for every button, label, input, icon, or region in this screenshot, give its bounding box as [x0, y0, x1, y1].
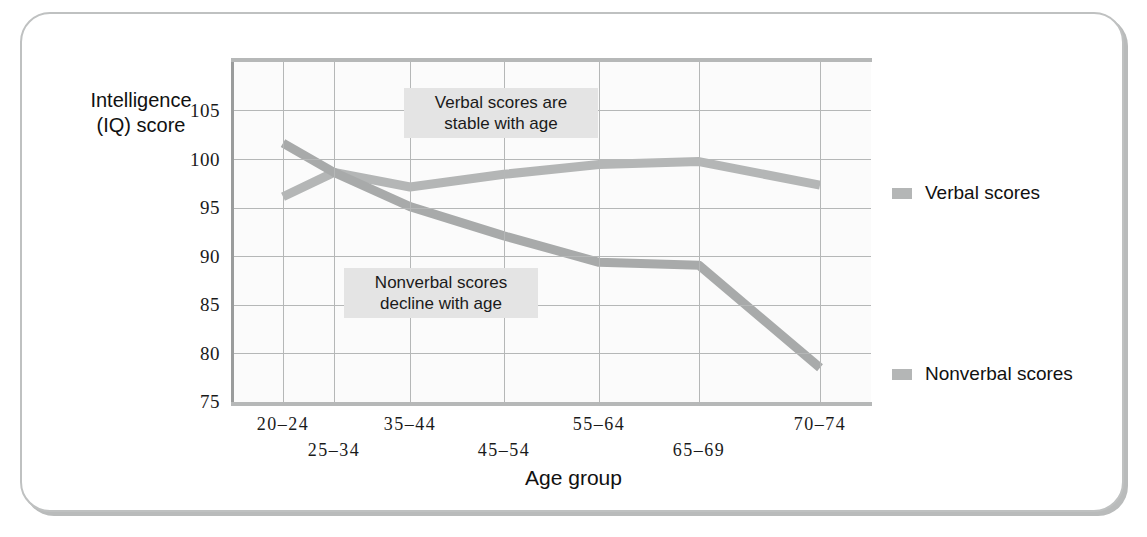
gridline-y-100: [233, 159, 871, 160]
y-tick-105: 105: [160, 100, 220, 122]
y-tick-95: 95: [160, 197, 220, 219]
legend-item-verbal: Verbal scores: [892, 182, 1040, 204]
y-tick-75: 75: [160, 391, 220, 413]
y-tick-80: 80: [160, 343, 220, 365]
y-tick-85: 85: [160, 294, 220, 316]
annotation-verbal: Verbal scores are stable with age: [404, 88, 598, 138]
y-axis-spine: [231, 58, 234, 406]
gridline-x-25-34: [334, 60, 335, 404]
x-axis-title: Age group: [0, 466, 1147, 490]
x-axis-spine: [231, 402, 872, 406]
annotation-nonverbal: Nonverbal scores decline with age: [344, 268, 538, 318]
legend-swatch-verbal-icon: [892, 188, 912, 199]
x-tick-35-44: 35–44: [384, 414, 437, 435]
gridline-x-65-69: [699, 60, 700, 404]
gridline-x-70-74: [820, 60, 821, 404]
x-tick-45-54: 45–54: [478, 440, 531, 461]
x-tick-65-69: 65–69: [673, 440, 726, 461]
x-tick-20-24: 20–24: [257, 414, 310, 435]
x-tick-25-34: 25–34: [308, 440, 361, 461]
legend-label-verbal: Verbal scores: [925, 182, 1040, 204]
y-tick-100: 100: [160, 149, 220, 171]
gridline-y-90: [233, 256, 871, 257]
x-tick-70-74: 70–74: [794, 414, 847, 435]
gridline-x-20-24: [283, 60, 284, 404]
y-tick-90: 90: [160, 246, 220, 268]
plot-top-spine: [231, 58, 872, 62]
figure-canvas: Intelligence (IQ) score 105 100 95 90 85…: [0, 0, 1147, 537]
legend-item-nonverbal: Nonverbal scores: [892, 363, 1073, 385]
verbal-scores-line: [283, 162, 820, 197]
gridline-y-80: [233, 353, 871, 354]
gridline-y-95: [233, 208, 871, 209]
legend-swatch-nonverbal-icon: [892, 369, 912, 380]
x-tick-55-64: 55–64: [573, 414, 626, 435]
legend-label-nonverbal: Nonverbal scores: [925, 363, 1073, 385]
gridline-y-85: [233, 305, 871, 306]
gridline-x-55-64: [599, 60, 600, 404]
